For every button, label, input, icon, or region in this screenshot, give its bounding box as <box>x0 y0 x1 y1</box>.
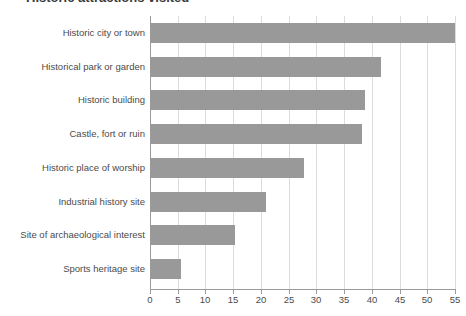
bar[interactable] <box>151 259 181 279</box>
y-axis-label: Historic city or town <box>0 27 145 38</box>
x-tick-label-40: 40 <box>367 294 378 305</box>
bar-chart: Historic attractions visited Historic ci… <box>0 0 466 316</box>
y-axis-label: Historic place of worship <box>0 162 145 173</box>
x-tick-label-0: 0 <box>147 294 152 305</box>
x-axis-line <box>150 289 456 290</box>
x-tick-label-55: 55 <box>450 294 461 305</box>
y-axis-label: Site of archaeological interest <box>0 229 145 240</box>
bar[interactable] <box>151 124 362 144</box>
bar[interactable] <box>151 90 365 110</box>
y-axis-category-labels: Historic city or townHistorical park or … <box>0 16 145 290</box>
y-axis-label: Castle, fort or ruin <box>0 128 145 139</box>
bar[interactable] <box>151 192 266 212</box>
x-tick-label-20: 20 <box>256 294 267 305</box>
x-tick-label-15: 15 <box>228 294 239 305</box>
y-axis-label: Historical park or garden <box>0 61 145 72</box>
x-tick-label-10: 10 <box>200 294 211 305</box>
bar[interactable] <box>151 23 455 43</box>
y-axis-label: Industrial history site <box>0 196 145 207</box>
y-axis-label: Historic building <box>0 94 145 105</box>
x-tick-label-25: 25 <box>284 294 295 305</box>
y-axis-line <box>150 16 151 290</box>
y-axis-label: Sports heritage site <box>0 263 145 274</box>
x-tick-label-35: 35 <box>339 294 350 305</box>
bar[interactable] <box>151 57 381 77</box>
chart-title-clipped: Historic attractions visited <box>0 0 466 7</box>
plot-area <box>150 16 456 290</box>
chart-title-text: Historic attractions visited <box>26 0 189 5</box>
x-tick-label-30: 30 <box>311 294 322 305</box>
bar[interactable] <box>151 225 235 245</box>
bar[interactable] <box>151 158 304 178</box>
x-tick-label-50: 50 <box>422 294 433 305</box>
x-tick-label-5: 5 <box>175 294 180 305</box>
x-axis-tick-labels: 0510152025303540455055 <box>150 294 460 310</box>
x-tick-label-45: 45 <box>395 294 406 305</box>
bar-series <box>150 16 456 290</box>
